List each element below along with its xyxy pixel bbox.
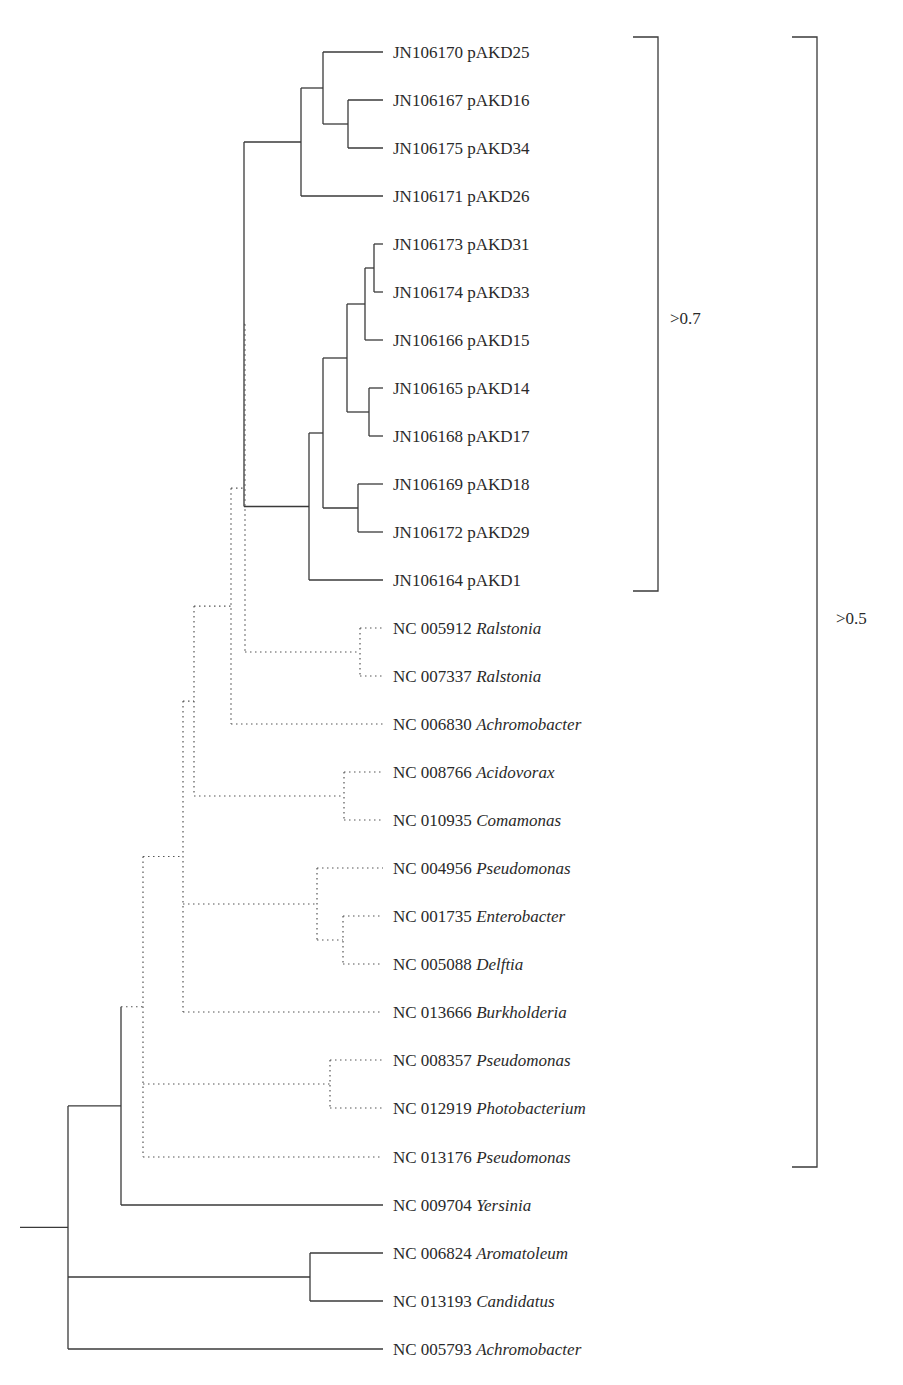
leaf-taxon: Ralstonia: [475, 667, 541, 686]
leaf-label: JN106167 pAKD16: [393, 91, 530, 110]
leaf-label: JN106170 pAKD25: [393, 43, 530, 62]
leaf-accession: JN106169: [393, 475, 467, 494]
leaf-accession: JN106167: [393, 91, 467, 110]
leaf-taxon: pAKD16: [467, 91, 529, 110]
leaf-taxon: Pseudomonas: [475, 1148, 571, 1167]
leaf-taxon: Achromobacter: [475, 1340, 582, 1359]
leaf-accession: JN106175: [393, 139, 467, 158]
leaf-accession: JN106166: [393, 331, 467, 350]
leaf-accession: NC 012919: [393, 1099, 476, 1118]
leaf-taxon: pAKD31: [467, 235, 529, 254]
leaf-label: JN106166 pAKD15: [393, 331, 530, 350]
leaf-label: NC 005912 Ralstonia: [393, 619, 541, 638]
leaf-accession: JN106172: [393, 523, 467, 542]
leaf-taxon: pAKD17: [467, 427, 530, 446]
leaf-taxon: pAKD18: [467, 475, 529, 494]
bracket-label: >0.7: [670, 309, 701, 328]
leaf-taxon: Photobacterium: [475, 1099, 586, 1118]
leaf-accession: JN106174: [393, 283, 467, 302]
leaf-accession: NC 013666: [393, 1003, 476, 1022]
leaf-taxon: pAKD25: [467, 43, 529, 62]
leaf-accession: NC 005088: [393, 955, 476, 974]
leaf-taxon: Ralstonia: [475, 619, 541, 638]
leaf-label: NC 005088 Delftia: [393, 955, 523, 974]
leaf-taxon: Aromatoleum: [475, 1244, 568, 1263]
leaf-label: NC 013176 Pseudomonas: [393, 1148, 571, 1167]
leaf-taxon: pAKD1: [467, 571, 521, 590]
leaf-label: NC 010935 Comamonas: [393, 811, 562, 830]
leaf-label: NC 008357 Pseudomonas: [393, 1051, 571, 1070]
leaf-accession: NC 008766: [393, 763, 476, 782]
leaf-accession: JN106170: [393, 43, 467, 62]
leaf-label: NC 009704 Yersinia: [393, 1196, 531, 1215]
leaf-accession: NC 005793: [393, 1340, 476, 1359]
leaf-label: NC 006830 Achromobacter: [393, 715, 582, 734]
leaf-label: JN106175 pAKD34: [393, 139, 530, 158]
leaf-taxon: Burkholderia: [476, 1003, 567, 1022]
leaf-label: NC 013193 Candidatus: [393, 1292, 555, 1311]
leaf-labels: JN106170 pAKD25JN106167 pAKD16JN106175 p…: [393, 43, 586, 1359]
leaf-accession: NC 005912: [393, 619, 476, 638]
bracket-label: >0.5: [836, 609, 867, 628]
leaf-taxon: Pseudomonas: [475, 859, 571, 878]
leaf-accession: NC 008357: [393, 1051, 476, 1070]
leaf-accession: NC 013193: [393, 1292, 476, 1311]
leaf-accession: JN106168: [393, 427, 467, 446]
leaf-accession: JN106165: [393, 379, 467, 398]
leaf-taxon: Comamonas: [476, 811, 561, 830]
leaf-accession: NC 007337: [393, 667, 476, 686]
leaf-taxon: pAKD15: [467, 331, 529, 350]
leaf-taxon: Acidovorax: [475, 763, 555, 782]
leaf-taxon: pAKD26: [467, 187, 529, 206]
leaf-label: NC 013666 Burkholderia: [393, 1003, 567, 1022]
leaf-label: NC 005793 Achromobacter: [393, 1340, 582, 1359]
leaf-accession: NC 010935: [393, 811, 476, 830]
leaf-label: NC 006824 Aromatoleum: [393, 1244, 568, 1263]
leaf-accession: NC 006824: [393, 1244, 476, 1263]
leaf-label: JN106168 pAKD17: [393, 427, 530, 446]
phylogenetic-tree: JN106170 pAKD25JN106167 pAKD16JN106175 p…: [0, 0, 903, 1385]
leaf-accession: NC 013176: [393, 1148, 476, 1167]
leaf-accession: NC 006830: [393, 715, 476, 734]
leaf-label: NC 012919 Photobacterium: [393, 1099, 586, 1118]
leaf-label: JN106165 pAKD14: [393, 379, 530, 398]
leaf-accession: JN106171: [393, 187, 467, 206]
leaf-label: NC 008766 Acidovorax: [393, 763, 555, 782]
support-brackets: >0.7>0.5: [633, 37, 867, 1167]
leaf-label: JN106169 pAKD18: [393, 475, 530, 494]
leaf-taxon: Candidatus: [476, 1292, 555, 1311]
leaf-label: NC 004956 Pseudomonas: [393, 859, 571, 878]
leaf-label: JN106164 pAKD1: [393, 571, 521, 590]
leaf-label: JN106172 pAKD29: [393, 523, 530, 542]
leaf-accession: NC 001735: [393, 907, 476, 926]
leaf-taxon: Achromobacter: [475, 715, 582, 734]
support-bracket: [792, 37, 817, 1167]
leaf-taxon: Yersinia: [476, 1196, 531, 1215]
support-bracket: [633, 37, 658, 591]
tree-canvas: JN106170 pAKD25JN106167 pAKD16JN106175 p…: [0, 0, 903, 1385]
leaf-label: JN106171 pAKD26: [393, 187, 530, 206]
leaf-taxon: Delftia: [475, 955, 523, 974]
leaf-label: JN106173 pAKD31: [393, 235, 530, 254]
leaf-accession: JN106164: [393, 571, 467, 590]
tree-branches: [20, 52, 383, 1349]
leaf-taxon: pAKD29: [467, 523, 529, 542]
leaf-taxon: pAKD14: [467, 379, 530, 398]
leaf-taxon: pAKD34: [467, 139, 530, 158]
leaf-label: NC 007337 Ralstonia: [393, 667, 541, 686]
leaf-taxon: Enterobacter: [475, 907, 565, 926]
leaf-accession: NC 004956: [393, 859, 476, 878]
leaf-label: JN106174 pAKD33: [393, 283, 530, 302]
leaf-taxon: pAKD33: [467, 283, 529, 302]
leaf-label: NC 001735 Enterobacter: [393, 907, 566, 926]
leaf-accession: NC 009704: [393, 1196, 476, 1215]
leaf-accession: JN106173: [393, 235, 467, 254]
leaf-taxon: Pseudomonas: [475, 1051, 571, 1070]
